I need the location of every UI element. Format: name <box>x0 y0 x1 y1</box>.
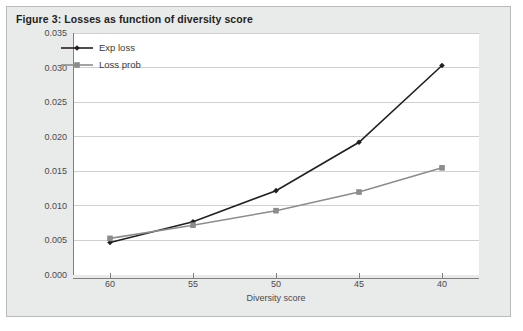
x-axis-line <box>73 278 479 279</box>
data-point-marker <box>439 165 445 171</box>
legend-marker-icon <box>60 42 94 54</box>
series-line <box>110 168 442 239</box>
legend-item: Exp loss <box>60 39 141 56</box>
legend-item: Loss prob <box>60 56 141 73</box>
x-tick-label: 55 <box>173 279 213 289</box>
y-tick-label: 0.000 <box>19 270 67 280</box>
series-line <box>110 66 442 243</box>
x-tick-label: 40 <box>422 279 462 289</box>
data-point-marker <box>107 236 113 242</box>
series-exp-loss <box>107 63 445 246</box>
figure-container: Figure 3: Losses as function of diversit… <box>6 6 511 317</box>
legend-marker-icon <box>60 59 94 71</box>
data-point-marker <box>356 189 362 195</box>
data-point-marker <box>190 222 196 228</box>
figure-title: Figure 3: Losses as function of diversit… <box>16 13 253 25</box>
data-point-marker <box>74 45 80 51</box>
y-tick-label: 0.005 <box>19 235 67 245</box>
y-tick-label: 0.015 <box>19 166 67 176</box>
data-point-marker <box>74 62 80 68</box>
legend-label: Loss prob <box>99 59 141 70</box>
y-tick-label: 0.020 <box>19 132 67 142</box>
x-tick-label: 45 <box>339 279 379 289</box>
x-axis-label: Diversity score <box>73 293 479 303</box>
chart-legend: Exp lossLoss prob <box>60 39 141 73</box>
y-tick-label: 0.025 <box>19 97 67 107</box>
y-tick-label: 0.035 <box>19 28 67 38</box>
x-tick-label: 60 <box>90 279 130 289</box>
y-tick-label: 0.010 <box>19 201 67 211</box>
x-tick-label: 50 <box>256 279 296 289</box>
legend-label: Exp loss <box>99 42 135 53</box>
data-point-marker <box>273 208 279 214</box>
